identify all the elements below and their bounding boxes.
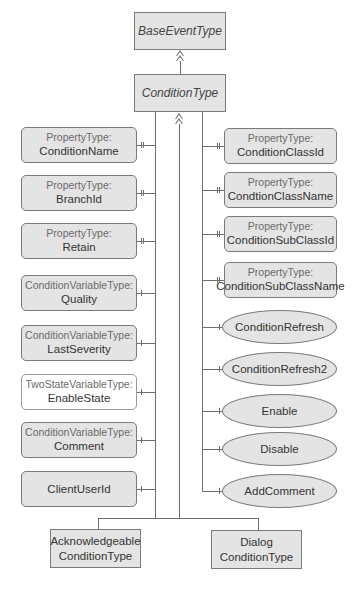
branch-id-node[interactable]: PropertyType: BranchId: [21, 175, 137, 211]
has-property-icon: [219, 277, 220, 283]
ref-line: [137, 343, 155, 344]
right-connector-line: [202, 112, 203, 492]
ref-line: [137, 392, 155, 393]
quality-node[interactable]: ConditionVariableType: Quality: [21, 275, 137, 311]
left-connector-line: [155, 112, 156, 519]
has-property-icon: [141, 190, 142, 196]
condition-subclass-name-node[interactable]: PropertyType: ConditionSubClassName: [224, 262, 337, 298]
condition-name-node[interactable]: PropertyType: ConditionName: [21, 127, 137, 163]
has-property-icon: [219, 187, 220, 193]
has-property-icon: [217, 231, 218, 237]
has-property-icon: [141, 238, 142, 244]
node-label: BaseEventType: [138, 24, 222, 39]
center-inheritance-line: [179, 120, 180, 519]
has-component-icon: [141, 486, 142, 492]
subtype-bar: [98, 518, 259, 519]
has-component-icon: [141, 340, 142, 346]
ref-line: [202, 234, 224, 235]
ref-line: [137, 489, 155, 490]
condition-refresh2-method[interactable]: ConditionRefresh2: [222, 352, 337, 386]
has-property-icon: [217, 277, 218, 283]
acknowledgeable-condition-type-node[interactable]: Acknowledgeable ConditionType: [50, 529, 141, 568]
has-component-icon: [219, 366, 220, 372]
inheritance-arrow-icon: [176, 55, 184, 61]
retain-node[interactable]: PropertyType: Retain: [21, 223, 137, 259]
has-component-icon: [141, 389, 142, 395]
comment-node[interactable]: ConditionVariableType: Comment: [21, 422, 137, 458]
condition-subclass-id-node[interactable]: PropertyType: ConditionSubClassId: [224, 216, 337, 252]
has-property-icon: [219, 231, 220, 237]
ref-line: [137, 293, 155, 294]
ref-line: [202, 190, 224, 191]
inheritance-arrow-icon: [175, 118, 183, 124]
ref-line: [137, 440, 155, 441]
condition-class-name-node[interactable]: PropertyType: CondtionClassName: [224, 172, 337, 208]
subtype-drop-right: [258, 518, 259, 530]
enable-state-node[interactable]: TwoStateVariableType: EnableState: [21, 374, 137, 410]
has-property-icon: [217, 187, 218, 193]
has-property-icon: [217, 143, 218, 149]
ref-line: [202, 146, 224, 147]
client-user-id-node[interactable]: ClientUserId: [21, 471, 137, 507]
condition-type-node[interactable]: ConditionType: [134, 74, 226, 112]
condition-class-id-node[interactable]: PropertyType: ConditionClassId: [224, 128, 337, 164]
has-property-icon: [141, 142, 142, 148]
has-property-icon: [219, 143, 220, 149]
has-component-icon: [219, 446, 220, 452]
has-property-icon: [143, 238, 144, 244]
enable-method[interactable]: Enable: [222, 394, 337, 428]
has-property-icon: [143, 142, 144, 148]
ref-line: [137, 145, 155, 146]
node-label: ConditionType: [142, 86, 219, 101]
disable-method[interactable]: Disable: [222, 432, 337, 466]
base-event-type-node[interactable]: BaseEventType: [134, 12, 226, 50]
has-component-icon: [141, 437, 142, 443]
has-component-icon: [219, 324, 220, 330]
ref-line: [202, 280, 224, 281]
has-component-icon: [141, 290, 142, 296]
ref-line: [137, 241, 155, 242]
ref-line: [137, 193, 155, 194]
add-comment-method[interactable]: AddComment: [222, 474, 337, 508]
condition-refresh-method[interactable]: ConditionRefresh: [222, 310, 337, 344]
dialog-condition-type-node[interactable]: Dialog ConditionType: [211, 530, 302, 569]
has-component-icon: [219, 488, 220, 494]
has-property-icon: [143, 190, 144, 196]
has-component-icon: [219, 408, 220, 414]
last-severity-node[interactable]: ConditionVariableType: LastSeverity: [21, 325, 137, 361]
